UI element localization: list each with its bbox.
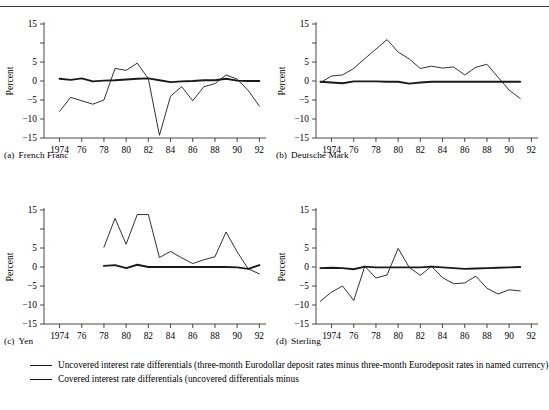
x-tick-label: 92 [527,331,537,341]
legend-line-swatch-thick-icon [30,379,52,380]
plot-area-c: 1550−5−10−151974767880828486889092Percen… [0,196,274,371]
x-tick-label: 88 [482,331,492,341]
x-tick-label: 92 [255,331,265,341]
series-line-thin [60,63,260,135]
series-line-thin [320,40,520,99]
x-tick-label: 80 [393,331,403,341]
legend-line-swatch-thin-icon [30,365,52,366]
x-tick-label: 90 [232,331,242,341]
x-tick-label: 76 [349,145,359,155]
legend-label-covered: Covered interest rate differentials (unc… [58,374,549,385]
chart-panel-yen: 1550−5−10−151974767880828486889092Percen… [0,196,274,371]
y-tick-label: 15 [28,19,38,29]
x-tick-label: 78 [99,331,109,341]
y-tick-label: −15 [294,133,309,143]
x-tick-label: 90 [232,145,242,155]
y-tick-label: 0 [32,76,37,86]
x-tick-label: 88 [482,145,492,155]
y-tick-label: −5 [27,95,37,105]
top-divider-rule [0,6,549,7]
x-tick-label: 82 [144,145,154,155]
y-axis-title: Percent [276,252,287,281]
y-tick-label: 0 [304,76,309,86]
x-tick-label: 76 [77,331,87,341]
y-tick-label: 0 [32,262,37,272]
series-line-thin [320,248,520,301]
panel-index-a: (a) [4,150,15,160]
x-tick-label: 82 [416,145,426,155]
y-tick-label: −10 [22,300,37,310]
x-tick-label: 82 [416,331,426,341]
panel-title-c: Yen [19,336,34,346]
panel-index-d: (d) [276,336,287,346]
series-line-thick [60,78,260,82]
x-tick-label: 86 [460,145,470,155]
y-tick-label: 15 [300,205,310,215]
x-tick-label: 84 [438,145,448,155]
x-tick-label: 78 [371,145,381,155]
x-tick-label: 88 [210,331,220,341]
y-tick-label: 15 [300,19,310,29]
panel-title-a: French Franc [19,150,69,160]
x-tick-label: 92 [527,145,537,155]
y-axis-title: Percent [4,252,15,281]
y-tick-label: −10 [294,300,309,310]
panel-caption-yen: (c)Yen [4,336,33,346]
x-tick-label: 80 [121,145,131,155]
legend-label-uncovered: Uncovered interest rate differentials (t… [58,360,549,371]
y-tick-label: 5 [32,57,37,67]
legend-entry-uncovered: Uncovered interest rate differentials (t… [0,360,549,371]
x-tick-label: 84 [438,331,448,341]
figure-legend: Uncovered interest rate differentials (t… [0,360,549,389]
panel-index-c: (c) [4,336,15,346]
y-axis-title: Percent [276,66,287,95]
panel-title-b: Deutsche Mark [291,150,349,160]
panel-title-d: Sterling [291,336,321,346]
x-tick-label: 90 [504,331,514,341]
y-tick-label: 0 [304,262,309,272]
y-tick-label: 5 [32,243,37,253]
x-tick-label: 86 [460,331,470,341]
x-tick-label: 84 [166,331,176,341]
x-tick-label: 1974 [322,331,341,341]
y-tick-label: 5 [304,57,309,67]
x-tick-label: 86 [188,145,198,155]
y-tick-label: −15 [22,133,37,143]
panel-caption-deutsche-mark: (b)Deutsche Mark [276,150,349,160]
x-tick-label: 84 [166,145,176,155]
y-tick-label: −15 [294,319,309,329]
x-tick-label: 86 [188,331,198,341]
x-tick-label: 92 [255,145,265,155]
y-tick-label: −10 [22,114,37,124]
y-tick-label: −5 [299,281,309,291]
y-tick-label: 15 [28,205,38,215]
series-line-thick [320,267,520,270]
x-tick-label: 80 [393,145,403,155]
x-tick-label: 76 [77,145,87,155]
y-tick-label: 5 [304,243,309,253]
y-axis-title: Percent [4,66,15,95]
x-tick-label: 88 [210,145,220,155]
x-tick-label: 1974 [50,331,69,341]
panel-caption-sterling: (d)Sterling [276,336,321,346]
x-tick-label: 76 [349,331,359,341]
x-tick-label: 80 [121,331,131,341]
y-tick-label: −5 [299,95,309,105]
panel-index-b: (b) [276,150,287,160]
x-tick-label: 78 [99,145,109,155]
x-tick-label: 82 [144,331,154,341]
x-tick-label: 90 [504,145,514,155]
x-tick-label: 78 [371,331,381,341]
panel-caption-french-franc: (a)French Franc [4,150,68,160]
legend-entry-covered: Covered interest rate differentials (unc… [0,374,549,385]
y-tick-label: −10 [294,114,309,124]
series-line-thin [104,215,259,274]
y-tick-label: −15 [22,319,37,329]
y-tick-label: −5 [27,281,37,291]
series-line-thick [104,265,259,269]
series-line-thick [320,81,520,83]
